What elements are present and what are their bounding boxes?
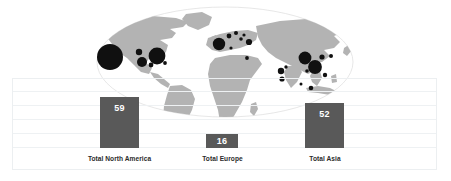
map-bubble [239, 37, 243, 41]
land-new-zealand [366, 116, 372, 125]
map-bubble [163, 61, 167, 65]
map-bubble [227, 34, 232, 39]
map-bubble [213, 38, 225, 50]
map-bubble [279, 76, 284, 81]
map-bubble [149, 63, 154, 68]
bar-value-europe: 16 [206, 136, 238, 146]
map-bubble [309, 86, 314, 91]
map-bubble [97, 44, 123, 70]
bar-value-north-america: 59 [100, 103, 139, 113]
chart-figure: 59 Total North America 16 Total Europe 5… [0, 0, 451, 181]
category-label-europe[interactable]: Total Europe [176, 155, 269, 162]
world-map-background [0, 0, 451, 181]
world-map-svg [0, 0, 451, 181]
map-bubble [242, 33, 245, 36]
map-bubble [278, 68, 284, 74]
map-bubble [319, 54, 324, 59]
map-bubble [234, 31, 238, 35]
map-bubble [300, 83, 303, 86]
map-bubble [229, 46, 232, 49]
map-bubble [284, 65, 287, 68]
map-bubble [308, 60, 322, 74]
map-bubble [323, 73, 327, 77]
map-bubble [329, 54, 333, 58]
category-label-north-america[interactable]: Total North America [67, 155, 172, 162]
bar-total-north-america[interactable]: 59 [100, 97, 139, 148]
map-bubble [246, 39, 252, 45]
map-bubble [137, 57, 147, 67]
bar-total-europe[interactable]: 16 [206, 134, 238, 148]
map-bubble [305, 69, 309, 73]
map-bubble [299, 52, 312, 65]
land-south-america [163, 85, 195, 148]
bar-value-asia: 52 [305, 109, 344, 119]
bar-total-asia[interactable]: 52 [305, 103, 344, 148]
map-bubble [136, 49, 142, 55]
category-label-asia[interactable]: Total Asia [280, 155, 370, 162]
map-bubble [245, 56, 249, 60]
map-bubble [149, 48, 166, 65]
